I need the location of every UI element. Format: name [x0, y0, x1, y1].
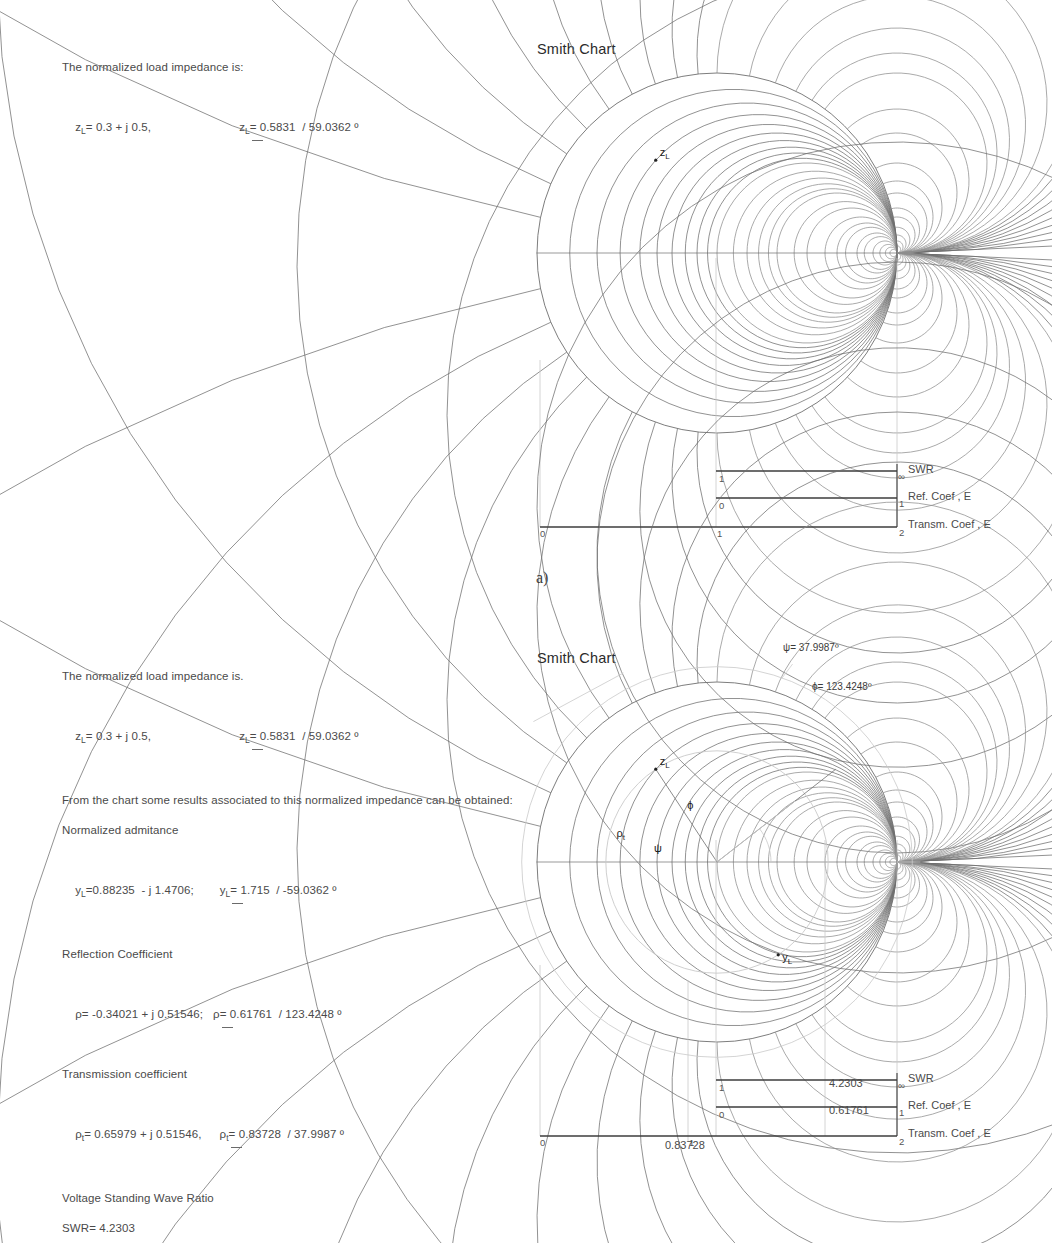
panel-b-yl-marker-label: yL — [782, 951, 793, 966]
panel-b-ref-right-tick: 1 — [899, 1107, 904, 1118]
panel-a-ref-scale-label: Ref. Coef , E — [908, 490, 971, 502]
panel-a-ref-left-tick: 0 — [719, 500, 724, 511]
panel-b-swr-right-tick: ∞ — [898, 1080, 905, 1091]
panel-a-zl-marker-label: zL — [660, 146, 671, 161]
panel-b-transm-right-tick: 2 — [899, 1136, 904, 1147]
panel-b-ref-left-tick: 0 — [719, 1109, 724, 1120]
panel-b-swr-scale-label: SWR — [908, 1072, 934, 1084]
panel-a-swr-scale-label: SWR — [908, 463, 934, 475]
panel-b-zl-marker-label: zL — [660, 755, 671, 770]
panel-b-swr-left-tick: 1 — [719, 1082, 724, 1093]
panel-b-axis-zero-tick: 0 — [540, 1137, 545, 1148]
panel-a-swr-right-tick: ∞ — [898, 471, 905, 482]
panel-b-ref-scale-label: Ref. Coef , E — [908, 1099, 971, 1111]
panel-a-axis-one-tick: 1 — [717, 528, 722, 539]
panel-a-ref-right-tick: 1 — [899, 498, 904, 509]
panel-b-psi-marker-label: ψ — [654, 842, 662, 854]
panel-b-smith-chart: zLyLρtϕψ — [0, 600, 1052, 1155]
panel-a-axis-zero-tick: 0 — [540, 528, 545, 539]
panel-b-phi-marker-label: ϕ — [687, 799, 693, 811]
panel-b-swr-value-line: SWR= 4.2303 — [62, 1213, 522, 1243]
panel-a-transm-right-tick: 2 — [899, 527, 904, 538]
panel-b-ref-value: 0.61761 — [829, 1104, 869, 1116]
panel-b-transm-scale-label: Transm. Coef , E — [908, 1127, 991, 1139]
panel-a-smith-chart: zL — [0, 0, 1052, 600]
panel-b-transm-value: 0.83728 — [665, 1139, 705, 1151]
panel-a-transm-scale-label: Transm. Coef , E — [908, 518, 991, 530]
panel-b-swr-value: 4.2303 — [829, 1077, 863, 1089]
panel-b-vswr-heading: Voltage Standing Wave Ratio — [62, 1183, 522, 1213]
panel-a-swr-left-tick: 1 — [719, 473, 724, 484]
